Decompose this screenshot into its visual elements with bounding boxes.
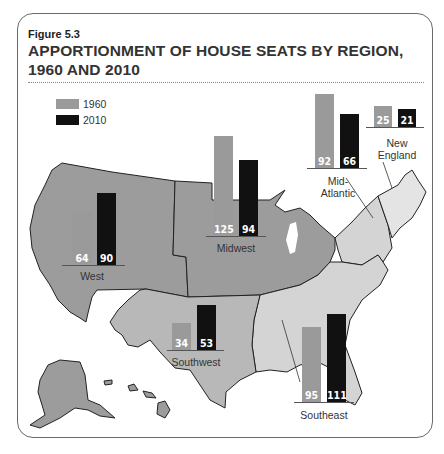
legend-swatch-1960	[56, 99, 79, 109]
baseline-southeast	[294, 402, 354, 403]
region-label-west: West	[70, 270, 114, 282]
bar-new-england-1960: 25	[374, 106, 392, 127]
region-label-southwest: Southwest	[164, 356, 228, 368]
map-region-hawaii	[104, 380, 170, 418]
baseline-new-england	[366, 127, 424, 128]
region-label-midwest: Midwest	[210, 242, 262, 254]
baseline-mid-atlantic	[307, 168, 367, 169]
bar-mid-atlantic-2010: 66	[340, 114, 359, 168]
bar-midwest-2010: 94	[239, 160, 258, 236]
bar-west-1960: 64	[72, 212, 92, 265]
region-label-mid-atlantic: Mid- Atlantic	[315, 175, 361, 199]
bar-southwest-2010: 53	[197, 305, 216, 350]
bar-mid-atlantic-1960: 92	[315, 94, 334, 168]
legend-item-1960: 1960	[56, 96, 106, 112]
region-label-southeast: Southeast	[296, 409, 352, 421]
region-label-new-england: New England	[374, 137, 420, 161]
baseline-midwest	[206, 236, 266, 237]
legend-item-2010: 2010	[56, 112, 106, 128]
legend: 1960 2010	[56, 96, 106, 128]
bar-southwest-1960: 34	[172, 323, 191, 350]
legend-swatch-2010	[56, 115, 79, 125]
baseline-southwest	[167, 350, 224, 351]
map-region-alaska	[30, 360, 115, 428]
bar-new-england-2010: 21	[398, 109, 416, 127]
baseline-west	[62, 265, 125, 266]
bar-midwest-1960: 125	[214, 136, 233, 236]
bar-west-2010: 90	[97, 193, 116, 265]
bar-southeast-2010: 111	[327, 314, 346, 402]
bar-southeast-1960: 95	[302, 327, 321, 402]
